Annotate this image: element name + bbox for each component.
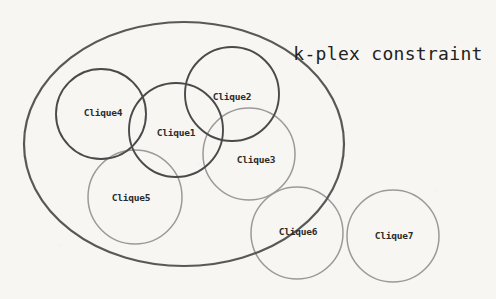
clique-label-clique4: Clique4 xyxy=(84,108,123,118)
clique-label-clique5: Clique5 xyxy=(112,193,151,203)
clique-label-clique3: Clique3 xyxy=(237,155,276,165)
figure-title: k-plex constraint xyxy=(293,45,482,63)
clique-label-clique6: Clique6 xyxy=(279,227,318,237)
diagram-canvas: Clique1Clique2Clique3Clique4Clique5Cliqu… xyxy=(0,0,496,299)
clique-label-clique2: Clique2 xyxy=(213,92,252,102)
clique-label-clique1: Clique1 xyxy=(157,128,196,138)
clique-label-clique7: Clique7 xyxy=(375,231,414,241)
